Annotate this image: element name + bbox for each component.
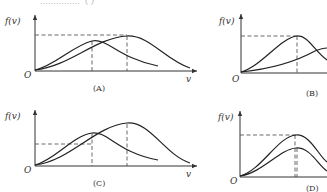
y-axis-label: f(v) (4, 16, 21, 26)
distribution-curve (241, 36, 327, 72)
distribution-curve (241, 48, 327, 72)
panel-d: f(v) O (D) (217, 111, 327, 192)
origin-label: O (24, 70, 32, 80)
distribution-curve (35, 36, 190, 70)
x-axis-label: v (186, 169, 191, 179)
origin-label: O (24, 165, 32, 175)
panel-caption: (C) (93, 179, 105, 188)
distribution-curve (240, 135, 327, 176)
y-axis-label: f(v) (217, 112, 234, 122)
y-axis-label: f(v) (218, 16, 235, 26)
origin-label: O (232, 74, 240, 84)
top-text-fragment: ……………（ ） (40, 0, 99, 6)
panel-caption: (A) (93, 84, 105, 93)
panel-caption: (D) (306, 184, 319, 192)
y-axis-label: f(v) (4, 111, 21, 121)
origin-label: O (230, 176, 238, 186)
figure-canvas: ……………（ ） f(v) O v (A) f(v) O (B) f(v) O … (0, 0, 327, 192)
panel-a: f(v) O v (A) (4, 15, 197, 93)
distribution-curve (240, 148, 327, 176)
x-axis-label: v (186, 74, 191, 84)
panel-c: f(v) O v (C) (4, 110, 197, 188)
panel-caption: (B) (306, 89, 318, 98)
panel-b: f(v) O (B) (218, 14, 327, 98)
